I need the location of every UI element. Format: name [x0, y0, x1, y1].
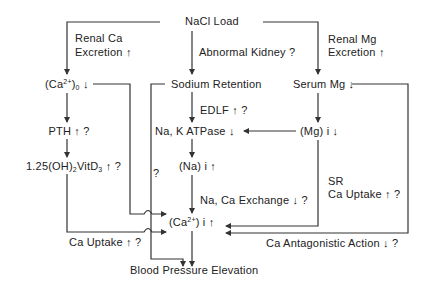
vitd3-pre: 1.25(OH)	[26, 160, 73, 172]
node-serum-mg: Serum Mg ↓	[293, 78, 354, 91]
label-question: ?	[153, 167, 159, 180]
label-sr-1: SR	[328, 175, 344, 188]
node-na-intracellular: (Na) i ↑	[179, 160, 216, 173]
node-na-k-atpase: Na, K ATPase ↓	[155, 125, 235, 138]
ca-o-text: (Ca	[45, 78, 63, 90]
ca-o-sup: 2+	[63, 78, 71, 85]
node-ca-intracellular: (Ca2+) i ↑	[169, 216, 214, 229]
label-sr-2: Ca Uptake ↑ ?	[328, 188, 400, 201]
node-nacl-load: NaCl Load	[185, 15, 239, 28]
node-blood-pressure: Blood Pressure Elevation	[130, 264, 258, 277]
node-pth: PTH ↑ ?	[48, 125, 89, 138]
label-na-ca-exchange: Na, Ca Exchange ↓ ?	[200, 194, 308, 207]
label-renal-mg-1: Renal Mg	[328, 33, 377, 46]
node-ca-extracellular: (Ca2+)0 ↓	[45, 78, 89, 91]
node-vitd3: 1.25(OH)2VitD3 ↑ ?	[26, 160, 121, 173]
ca-o-arrow: ↓	[80, 78, 89, 90]
label-renal-mg-2: Excretion ↑	[328, 46, 385, 59]
label-ca-antagonistic: Ca Antagonistic Action ↓ ?	[266, 237, 398, 250]
vitd3-mid: VitD	[77, 160, 98, 172]
label-renal-ca-2: Excretion ↑	[75, 46, 132, 59]
ca-i-post: ) i ↑	[196, 216, 215, 228]
label-edlf: EDLF ↑ ?	[200, 104, 247, 117]
label-renal-ca-1: Renal Ca	[75, 32, 122, 45]
ca-i-sup: 2+	[187, 216, 195, 223]
label-abnormal-kidney: Abnormal Kidney ?	[199, 46, 295, 59]
node-mg-intracellular: (Mg) i ↓	[300, 125, 338, 138]
vitd3-post: ↑ ?	[102, 160, 121, 172]
node-sodium-retention: Sodium Retention	[171, 78, 262, 91]
ca-i-pre: (Ca	[169, 216, 187, 228]
label-ca-uptake: Ca Uptake ↑ ?	[69, 236, 141, 249]
